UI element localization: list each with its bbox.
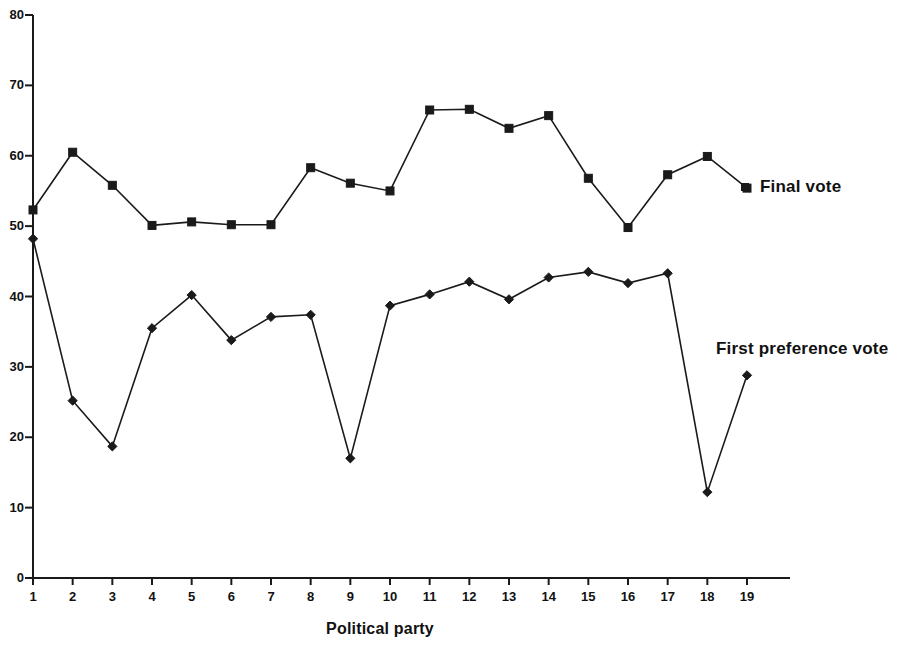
data-point-marker (188, 218, 196, 226)
x-axis-tick-label: 1 (18, 589, 48, 604)
data-point-marker (29, 206, 37, 214)
data-point-marker (346, 454, 355, 463)
y-axis-tick-label: 40 (0, 289, 24, 304)
x-axis-tick-label: 2 (58, 589, 88, 604)
data-point-marker (584, 174, 592, 182)
series-label-first-preference-vote: First preference vote (716, 339, 888, 359)
y-axis-tick-label: 50 (0, 218, 24, 233)
x-axis-tick-label: 3 (97, 589, 127, 604)
y-axis-tick-label: 80 (0, 7, 24, 22)
x-axis-tick-label: 12 (454, 589, 484, 604)
data-point-marker (267, 221, 275, 229)
series-label-final-vote: Final vote (760, 177, 841, 197)
final-vote-legend-marker (741, 183, 749, 191)
series-line-1 (33, 239, 747, 492)
x-axis-tick-label: 10 (375, 589, 405, 604)
data-point-marker (306, 310, 315, 319)
x-axis-tick-label: 5 (177, 589, 207, 604)
y-axis-tick-label: 10 (0, 500, 24, 515)
data-point-marker (664, 171, 672, 179)
x-axis-tick-label: 19 (732, 589, 762, 604)
x-axis-tick-label: 15 (573, 589, 603, 604)
data-point-marker (703, 488, 712, 497)
x-axis-tick-label: 13 (494, 589, 524, 604)
x-axis-tick-label: 7 (256, 589, 286, 604)
x-axis-tick-label: 4 (137, 589, 167, 604)
data-point-marker (266, 312, 275, 321)
data-point-marker (385, 301, 394, 310)
data-point-marker (545, 112, 553, 120)
y-axis-tick-label: 70 (0, 77, 24, 92)
data-point-marker (69, 148, 77, 156)
series-line-0 (33, 109, 747, 227)
annotation-markers (741, 183, 749, 191)
x-axis-tick-label: 9 (335, 589, 365, 604)
data-point-marker (742, 371, 751, 380)
data-point-marker (623, 279, 632, 288)
data-point-marker (703, 152, 711, 160)
data-point-marker (148, 221, 156, 229)
chart-series-group (28, 105, 751, 496)
x-axis-tick-label: 16 (613, 589, 643, 604)
data-point-marker (386, 187, 394, 195)
data-point-marker (465, 105, 473, 113)
data-point-marker (28, 234, 37, 243)
x-axis-tick-label: 17 (653, 589, 683, 604)
y-axis-tick-label: 0 (0, 570, 24, 585)
data-point-marker (307, 164, 315, 172)
x-axis-tick-label: 14 (534, 589, 564, 604)
data-point-marker (346, 179, 354, 187)
y-axis-tick-label: 20 (0, 429, 24, 444)
y-axis-tick-label: 60 (0, 148, 24, 163)
data-point-marker (504, 295, 513, 304)
data-point-marker (624, 224, 632, 232)
y-axis-tick-label: 30 (0, 359, 24, 374)
x-axis-title: Political party (0, 620, 760, 638)
data-point-marker (425, 290, 434, 299)
x-axis-tick-label: 6 (216, 589, 246, 604)
x-axis-tick-label: 11 (415, 589, 445, 604)
data-point-marker (505, 124, 513, 132)
chart-plot-area (0, 0, 902, 651)
data-point-marker (544, 273, 553, 282)
data-point-marker (227, 221, 235, 229)
x-axis-tick-label: 18 (692, 589, 722, 604)
x-axis-tick-label: 8 (296, 589, 326, 604)
data-point-marker (465, 277, 474, 286)
data-point-marker (584, 267, 593, 276)
data-point-marker (426, 106, 434, 114)
data-point-marker (663, 269, 672, 278)
data-point-marker (108, 181, 116, 189)
line-chart-figure: 01020304050607080 1234567891011121314151… (0, 0, 902, 651)
